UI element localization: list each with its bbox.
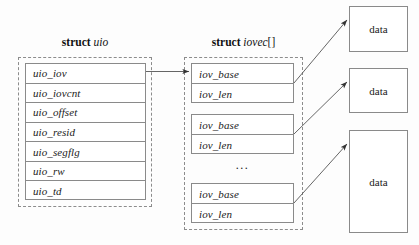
diagram-canvas: struct uio uio_iov uio_iovcnt uio_offset… (0, 0, 419, 245)
data-block-2: data (349, 130, 408, 233)
struct-iovec-brackets: [] (268, 36, 276, 48)
iovec-entry-0: iov_base iov_len (191, 63, 294, 103)
field-row: uio_offset (26, 103, 145, 123)
struct-iovec-keyword: struct (212, 36, 241, 48)
field-row: uio_iovcnt (26, 84, 145, 104)
field-row: uio_rw (26, 162, 145, 182)
struct-uio-field-table: uio_iov uio_iovcnt uio_offset uio_resid … (25, 63, 146, 200)
field-row: uio_resid (26, 123, 145, 143)
struct-uio-name: uio (93, 36, 108, 48)
data-block-1: data (349, 68, 408, 113)
field-row: uio_iov (26, 64, 145, 84)
struct-uio-title: struct uio (18, 36, 152, 48)
field-row: iov_len (192, 135, 293, 155)
struct-uio-keyword: struct (62, 36, 91, 48)
data-block-0: data (349, 6, 408, 52)
struct-iovec-title: struct iovec[] (184, 36, 303, 48)
field-row: iov_base (192, 64, 293, 84)
iovec-entry-1: iov_base iov_len (191, 114, 294, 154)
field-row: iov_base (192, 115, 293, 135)
iovec-entry-2: iov_base iov_len (191, 183, 294, 223)
field-row: uio_segflg (26, 142, 145, 162)
field-row: iov_base (192, 184, 293, 204)
struct-iovec-name: iovec (243, 36, 267, 48)
iovec-ellipsis: ... (191, 158, 294, 173)
field-row: uio_td (26, 181, 145, 201)
field-row: iov_len (192, 84, 293, 104)
field-row: iov_len (192, 204, 293, 224)
